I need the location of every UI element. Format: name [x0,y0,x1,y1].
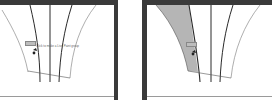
cursor-tag [25,41,36,46]
artwork-curves-filled [138,0,272,100]
tooltip-text: Click to make a Live Paint group [36,44,79,48]
cursor-tag [186,42,197,47]
artwork-curves [0,0,120,100]
filled-region [156,5,198,72]
canvas-panel-after[interactable] [138,0,272,100]
canvas-panel-before[interactable]: Click to make a Live Paint group [0,0,120,100]
